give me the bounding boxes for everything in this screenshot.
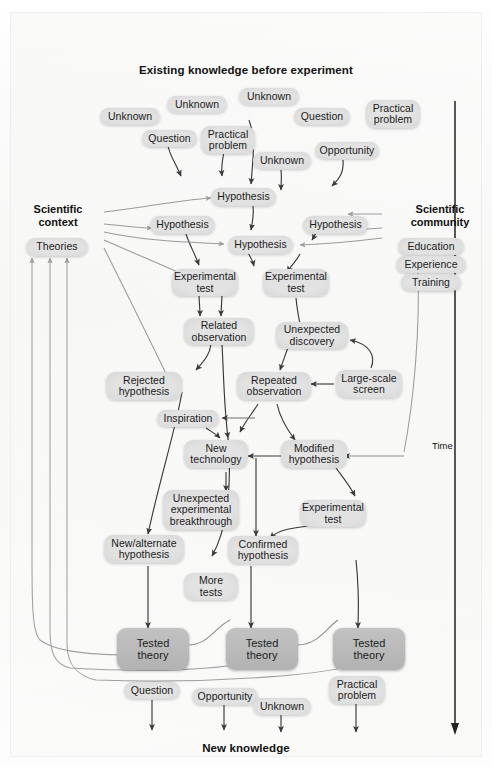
output-practical-problem[interactable]: Practical problem xyxy=(329,676,385,704)
node-rejected-hypothesis[interactable]: Rejected hypothesis xyxy=(106,372,182,400)
input-unknown-4[interactable]: Unknown xyxy=(253,152,311,169)
node-confirmed-hypothesis[interactable]: Confirmed hypothesis xyxy=(228,536,298,564)
node-modified-hypothesis[interactable]: Modified hypothesis xyxy=(281,440,347,468)
node-experimental-test-1[interactable]: Experimental test xyxy=(172,269,238,296)
input-unknown-2[interactable]: Unknown xyxy=(167,96,227,113)
time-axis xyxy=(451,101,459,735)
input-unknown-3[interactable]: Unknown xyxy=(239,88,299,105)
outcome-tested-theory-2[interactable]: Tested theory xyxy=(226,628,298,670)
input-question-2[interactable]: Question xyxy=(294,108,350,125)
node-hypothesis-4[interactable]: Hypothesis xyxy=(228,236,293,254)
node-hypothesis-2[interactable]: Hypothesis xyxy=(150,216,215,234)
time-axis-label: Time xyxy=(432,440,478,451)
node-new-alternate-hypothesis[interactable]: New/alternate hypothesis xyxy=(104,535,184,563)
input-practical-problem-1[interactable]: Practical problem xyxy=(201,126,255,154)
output-question[interactable]: Question xyxy=(124,682,180,699)
output-unknown[interactable]: Unknown xyxy=(253,698,311,715)
heading-scientific-community: Scientific community xyxy=(394,203,486,228)
footer-label: New knowledge xyxy=(0,742,492,754)
node-more-tests[interactable]: More tests xyxy=(184,573,238,600)
node-related-observation[interactable]: Related observation xyxy=(184,318,254,345)
node-theories[interactable]: Theories xyxy=(26,238,88,256)
input-question-1[interactable]: Question xyxy=(142,130,197,147)
heading-scientific-context: Scientific context xyxy=(18,203,98,228)
node-unexpected-experimental-breakthrough[interactable]: Unexpected experimental breakthrough xyxy=(163,490,239,530)
node-hypothesis-1[interactable]: Hypothesis xyxy=(211,188,276,206)
node-repeated-observation[interactable]: Repeated observation xyxy=(237,372,311,400)
node-hypothesis-3[interactable]: Hypothesis xyxy=(303,216,368,234)
outcome-tested-theory-1[interactable]: Tested theory xyxy=(117,628,189,670)
node-unexpected-discovery[interactable]: Unexpected discovery xyxy=(276,322,348,349)
diagram-canvas: Existing knowledge before experiment New… xyxy=(0,0,492,767)
node-education[interactable]: Education xyxy=(398,238,464,255)
input-unknown-1[interactable]: Unknown xyxy=(100,108,160,125)
input-practical-problem-2[interactable]: Practical problem xyxy=(366,100,420,128)
input-opportunity-1[interactable]: Opportunity xyxy=(315,142,379,159)
node-inspiration[interactable]: Inspiration xyxy=(157,410,219,427)
outcome-tested-theory-3[interactable]: Tested theory xyxy=(333,628,405,670)
output-opportunity[interactable]: Opportunity xyxy=(192,688,258,705)
node-experimental-test-2[interactable]: Experimental test xyxy=(263,269,329,296)
node-experimental-test-3[interactable]: Experimental test xyxy=(300,500,366,527)
node-training[interactable]: Training xyxy=(401,274,461,291)
node-experience[interactable]: Experience xyxy=(396,256,466,273)
page-title: Existing knowledge before experiment xyxy=(0,64,492,76)
node-large-scale-screen[interactable]: Large-scale screen xyxy=(336,370,402,398)
node-new-technology[interactable]: New technology xyxy=(184,440,248,468)
